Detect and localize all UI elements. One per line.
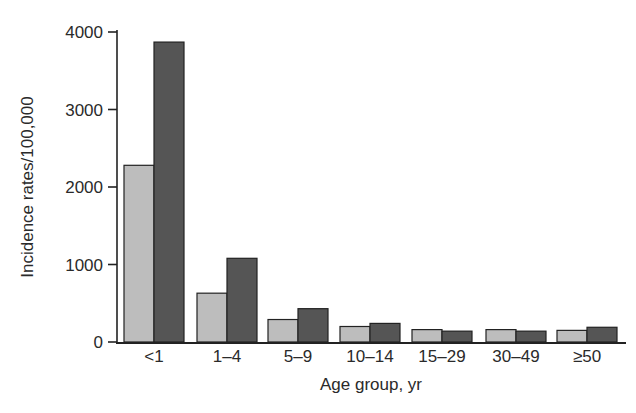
bar-dark xyxy=(516,331,546,342)
bar-group xyxy=(412,330,472,342)
x-tick-label: 1–4 xyxy=(213,347,241,366)
x-tick-label: 5–9 xyxy=(284,347,312,366)
x-axis: <11–45–910–1415–2930–49≥50 xyxy=(116,343,626,366)
x-tick-label: ≥50 xyxy=(573,347,601,366)
bar-chart: 01000200030004000 <11–45–910–1415–2930–4… xyxy=(0,0,636,413)
bars xyxy=(124,42,617,342)
bar-group xyxy=(486,330,546,342)
chart-canvas: 01000200030004000 <11–45–910–1415–2930–4… xyxy=(0,0,636,413)
bar-light xyxy=(268,320,298,342)
bar-light xyxy=(197,293,227,342)
y-tick-label: 1000 xyxy=(65,256,103,275)
bar-light xyxy=(412,330,442,342)
bar-group xyxy=(268,309,328,342)
bar-group xyxy=(197,258,257,342)
x-axis-label: Age group, yr xyxy=(320,375,422,394)
y-axis: 01000200030004000 xyxy=(65,23,117,352)
bar-dark xyxy=(442,331,472,342)
x-tick-label: 15–29 xyxy=(418,347,465,366)
bar-dark xyxy=(587,327,617,342)
bar-light xyxy=(340,327,370,343)
bar-light xyxy=(557,330,587,342)
bar-light xyxy=(486,330,516,342)
x-tick-label: <1 xyxy=(144,347,163,366)
y-tick-label: 0 xyxy=(94,333,103,352)
y-tick-label: 4000 xyxy=(65,23,103,42)
bar-group xyxy=(340,323,400,342)
y-tick-label: 2000 xyxy=(65,178,103,197)
bar-group xyxy=(124,42,184,342)
bar-dark xyxy=(154,42,184,342)
x-tick-label: 30–49 xyxy=(492,347,539,366)
x-tick-label: 10–14 xyxy=(346,347,393,366)
y-tick-label: 3000 xyxy=(65,101,103,120)
bar-dark xyxy=(298,309,328,342)
bar-dark xyxy=(227,258,257,342)
bar-dark xyxy=(370,323,400,342)
y-axis-label: Incidence rates/100,000 xyxy=(18,96,37,277)
bar-light xyxy=(124,165,154,342)
bar-group xyxy=(557,327,617,342)
